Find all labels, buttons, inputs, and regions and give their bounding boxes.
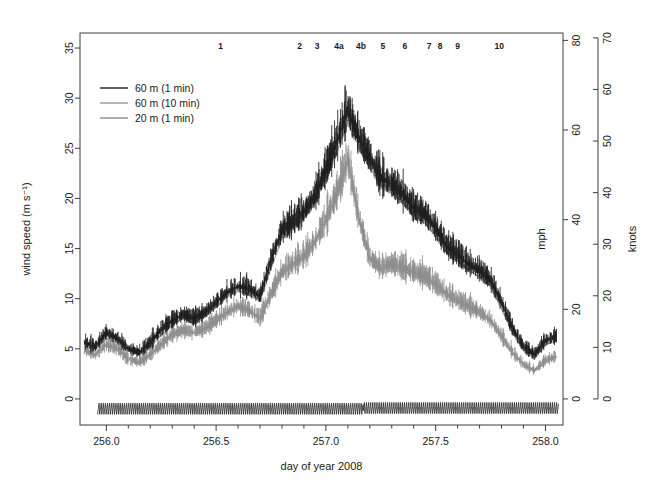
y-tick-label: 20 bbox=[63, 192, 75, 204]
top-annotation-7: 7 bbox=[427, 41, 432, 51]
y-tick-label: 25 bbox=[63, 142, 75, 154]
y-tick-label: 0 bbox=[63, 396, 75, 402]
top-annotation-3: 3 bbox=[315, 41, 320, 51]
wind-speed-chart: 05101520253035wind speed (m s⁻¹)256.0256… bbox=[0, 0, 650, 502]
x-tick-label: 256.0 bbox=[93, 435, 119, 447]
bottom-direction-trace bbox=[98, 402, 559, 414]
mph-tick-label: 60 bbox=[570, 124, 582, 136]
mph-tick-label: 40 bbox=[570, 214, 582, 226]
top-annotation-9: 9 bbox=[455, 41, 460, 51]
x-tick-label: 256.5 bbox=[203, 435, 229, 447]
mph-axis-label: mph bbox=[535, 228, 547, 249]
top-annotation-4a: 4a bbox=[334, 41, 344, 51]
legend-label: 60 m (1 min) bbox=[135, 82, 194, 94]
figure-container: 05101520253035wind speed (m s⁻¹)256.0256… bbox=[0, 0, 650, 502]
top-annotation-8: 8 bbox=[438, 41, 443, 51]
legend-label: 60 m (10 min) bbox=[135, 97, 200, 109]
y-tick-label: 15 bbox=[63, 243, 75, 255]
top-annotation-4b: 4b bbox=[356, 41, 366, 51]
mph-tick-label: 80 bbox=[570, 34, 582, 46]
knots-tick-label: 20 bbox=[601, 290, 613, 302]
knots-tick-label: 60 bbox=[601, 83, 613, 95]
x-tick-label: 258.0 bbox=[532, 435, 558, 447]
mph-tick-label: 0 bbox=[570, 396, 582, 402]
legend-label: 20 m (1 min) bbox=[135, 112, 194, 124]
top-annotation-5: 5 bbox=[381, 41, 386, 51]
knots-tick-label: 0 bbox=[601, 396, 613, 402]
y-axis-label: wind speed (m s⁻¹) bbox=[20, 182, 32, 276]
knots-tick-label: 10 bbox=[601, 341, 613, 353]
y-tick-label: 30 bbox=[63, 92, 75, 104]
x-tick-label: 257.5 bbox=[423, 435, 449, 447]
y-tick-label: 10 bbox=[63, 293, 75, 305]
knots-axis-label: knots bbox=[626, 225, 638, 252]
y-tick-label: 5 bbox=[63, 346, 75, 352]
knots-tick-label: 70 bbox=[601, 32, 613, 44]
knots-tick-label: 30 bbox=[601, 238, 613, 250]
y-tick-label: 35 bbox=[63, 42, 75, 54]
x-tick-label: 257.0 bbox=[313, 435, 339, 447]
top-annotation-1: 1 bbox=[218, 41, 223, 51]
top-annotation-10: 10 bbox=[495, 41, 505, 51]
x-axis-label: day of year 2008 bbox=[281, 460, 363, 472]
mph-tick-label: 20 bbox=[570, 303, 582, 315]
top-annotation-6: 6 bbox=[403, 41, 408, 51]
knots-tick-label: 50 bbox=[601, 135, 613, 147]
knots-tick-label: 40 bbox=[601, 187, 613, 199]
top-annotation-2: 2 bbox=[297, 41, 302, 51]
